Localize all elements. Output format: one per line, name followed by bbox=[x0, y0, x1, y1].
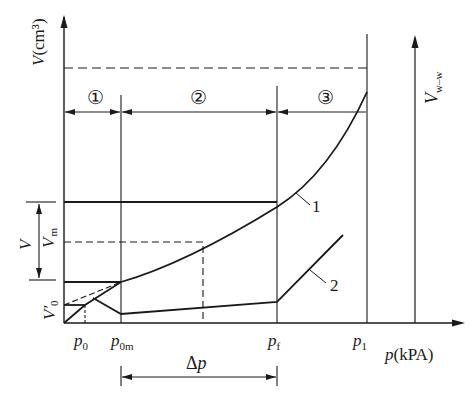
curve-1 bbox=[64, 92, 367, 323]
x-axis-label: p(kPA) bbox=[384, 345, 434, 364]
vww-axis-arrow-icon bbox=[412, 35, 419, 48]
delta-p-label: Δp bbox=[186, 353, 207, 373]
curve-1-label: 1 bbox=[312, 197, 321, 216]
vm-label: Vm bbox=[39, 228, 59, 248]
pv-diagram: V(cm³) Vw–w V Vm V′0 ① ② ③ 1 2 p0 p0m pf… bbox=[0, 0, 470, 402]
x-axis-arrow-icon bbox=[452, 320, 465, 327]
region-1-label: ① bbox=[87, 87, 104, 108]
curve-2-label: 2 bbox=[330, 276, 339, 295]
region-3-label: ③ bbox=[317, 87, 334, 108]
y-axis-label: V(cm³) bbox=[29, 18, 48, 66]
curve-1-leader bbox=[296, 193, 310, 205]
curve-2-leader bbox=[310, 270, 326, 283]
tangent-dashed-line bbox=[64, 282, 121, 305]
curve-2 bbox=[93, 235, 343, 314]
p1-label: p1 bbox=[352, 331, 367, 352]
y-axis-arrow-icon bbox=[61, 15, 68, 28]
vww-axis-label: Vw–w bbox=[422, 72, 444, 104]
pf-label: pf bbox=[267, 331, 281, 352]
region-2-label: ② bbox=[190, 87, 207, 108]
v-label: V bbox=[16, 237, 35, 250]
p0-label: p0 bbox=[73, 331, 89, 352]
v0-prime-label: V′0 bbox=[40, 300, 60, 320]
p0m-label: p0m bbox=[110, 331, 134, 352]
